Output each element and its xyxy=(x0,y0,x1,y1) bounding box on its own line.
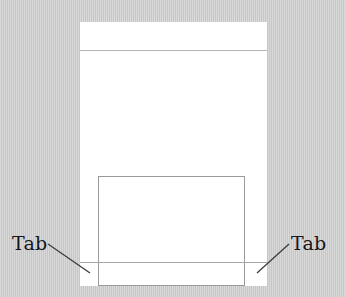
figure-canvas: Tab Tab xyxy=(0,0,345,297)
page-header-rule xyxy=(80,50,267,51)
callout-label-tab-left: Tab xyxy=(12,234,47,253)
content-frame xyxy=(98,176,245,286)
callout-label-tab-right: Tab xyxy=(291,234,326,253)
page-footer-rule xyxy=(80,262,267,263)
